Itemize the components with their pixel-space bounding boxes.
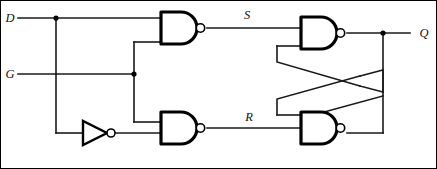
junction-dot-q [380, 30, 385, 35]
inverter-d[interactable] [83, 121, 115, 145]
nand-q-bubble [336, 29, 344, 37]
nand-r-bubble [196, 124, 204, 132]
nand-r-body [161, 112, 197, 144]
logic-diagram-svg: D G S R Q [0, 0, 437, 169]
wire-right-join-upper [360, 86, 383, 92]
nand-gate-s[interactable] [161, 12, 205, 44]
junction-dot-g [131, 71, 136, 76]
nand-gate-qbar[interactable] [301, 112, 345, 144]
logic-diagram-canvas: D G S R Q [0, 0, 437, 169]
nand-gate-r[interactable] [161, 112, 205, 144]
inverter-triangle [83, 121, 107, 145]
nand-q-body [301, 17, 337, 49]
label-g: G [5, 67, 14, 81]
label-s: S [244, 8, 251, 22]
wire-group [18, 18, 410, 133]
junction-dot-d [53, 15, 58, 20]
diagram-border [1, 1, 437, 169]
nand-gate-q[interactable] [301, 17, 345, 49]
label-d: D [4, 11, 14, 25]
nand-qbar-body [301, 112, 337, 144]
label-q: Q [419, 26, 428, 40]
nand-s-body [161, 12, 197, 44]
nand-qbar-bubble [336, 124, 344, 132]
inverter-bubble [107, 129, 115, 137]
nand-s-bubble [196, 24, 204, 32]
wire-right-join-lower [360, 70, 383, 76]
label-r: R [244, 110, 253, 124]
